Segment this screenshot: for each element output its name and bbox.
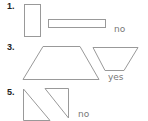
- trapezoid: [23, 47, 99, 80]
- inverted-trapezoid: [93, 48, 138, 71]
- right-triangle-upper-right: [45, 89, 69, 119]
- wide-rectangle: [49, 20, 106, 28]
- shapes-canvas: [0, 0, 148, 121]
- tall-rectangle: [25, 5, 41, 37]
- right-triangle-lower-left: [24, 89, 51, 121]
